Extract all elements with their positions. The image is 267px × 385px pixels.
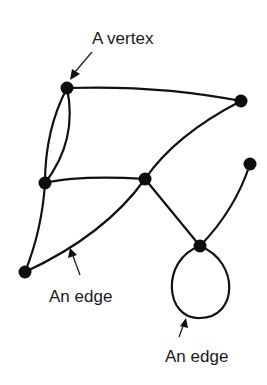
vertex-v6 bbox=[194, 240, 207, 253]
vertex-v3 bbox=[39, 177, 52, 190]
vertex-v1 bbox=[61, 82, 74, 95]
graph-diagram: A vertex An edge An edge bbox=[0, 0, 267, 385]
edge-v5-v6 bbox=[200, 164, 250, 246]
edge-v7-v4 bbox=[25, 179, 145, 272]
edge-label-2: An edge bbox=[165, 347, 228, 366]
vertex-v2 bbox=[235, 95, 248, 108]
edge-v1-v3-left bbox=[45, 88, 67, 183]
edge-v4-v6 bbox=[145, 179, 200, 246]
edge-v6-loop bbox=[172, 246, 229, 318]
edge-v1-v3-right bbox=[45, 88, 70, 183]
edges bbox=[25, 88, 250, 319]
edge-v3-v4 bbox=[45, 178, 145, 183]
edge2-pointer-line bbox=[179, 326, 183, 337]
vertex-v4 bbox=[139, 173, 152, 186]
vertex-pointer-arrowhead bbox=[70, 69, 80, 80]
edge1-pointer-line bbox=[73, 256, 80, 275]
edge-label-1: An edge bbox=[49, 287, 112, 306]
edge2-pointer-arrowhead bbox=[180, 318, 188, 328]
edge-v3-v7 bbox=[25, 183, 45, 272]
edge-v1-v2 bbox=[67, 88, 241, 101]
vertex-v7 bbox=[19, 266, 32, 279]
edge-v2-v4 bbox=[145, 101, 241, 179]
edge1-pointer-arrowhead bbox=[68, 248, 77, 258]
vertex-v5 bbox=[244, 158, 257, 171]
vertex-label: A vertex bbox=[92, 29, 154, 48]
vertex-pointer-line bbox=[75, 52, 92, 72]
